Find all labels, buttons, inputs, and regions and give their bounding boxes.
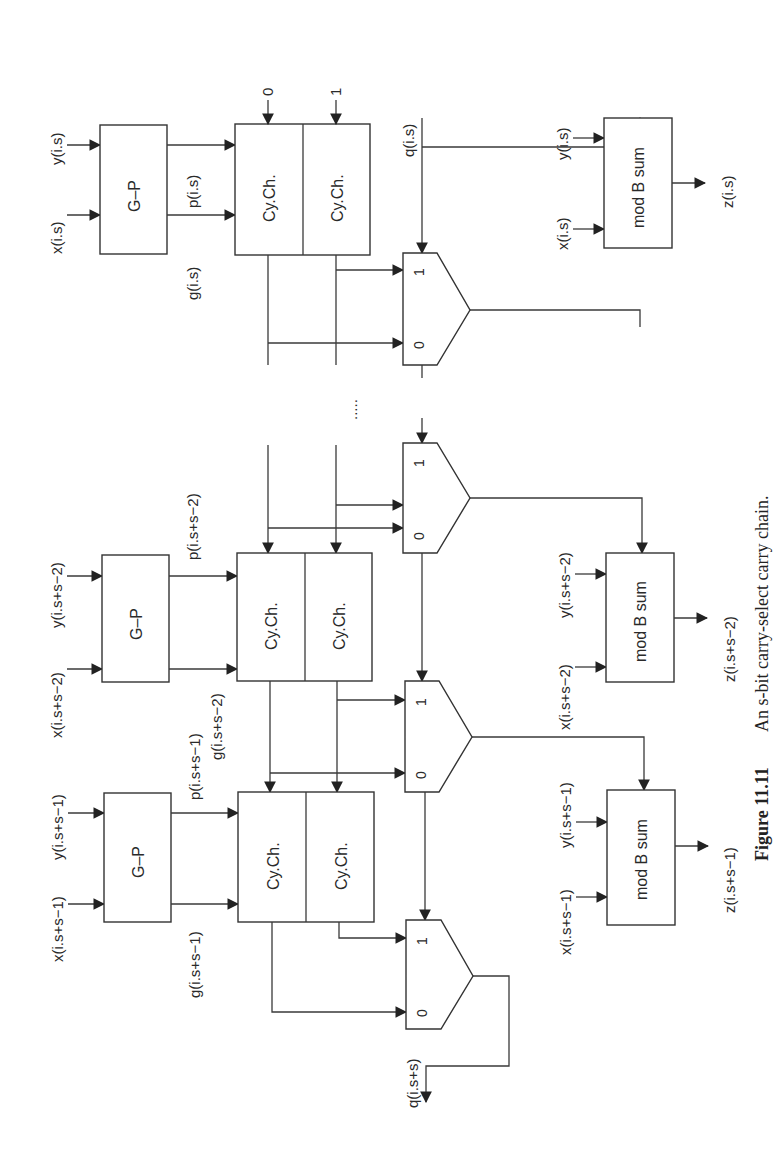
mux-1-in0-label: 0: [411, 532, 427, 540]
p-label: p(i.s): [184, 175, 201, 208]
gp-block-label: G–P: [130, 846, 147, 878]
stage-s-minus-2: 1 0 x(i.s+s−2) y(i.s+s−2) G–P g(i.s+s−2)…: [48, 418, 738, 792]
mux-0-out-wire: [470, 310, 640, 327]
g-label: g(i.s): [184, 267, 201, 300]
carry-chain-1-label: Cy.Ch.: [329, 174, 346, 222]
carry-in-0-label: 0: [259, 88, 276, 96]
x-input-label: x(i.s+s−1): [49, 896, 66, 962]
carry-chain-1-label: Cy.Ch.: [333, 842, 350, 890]
mod-b-sum-0-label: mod B sum: [630, 147, 647, 228]
gp-block-label: G–P: [128, 608, 145, 640]
q-input-label: q(i.s): [400, 124, 417, 157]
sum0-x-label: x(i.s): [554, 218, 571, 251]
stage-0: x(i.s) y(i.s) G–P g(i.s) p(i.s) Cy.Ch. C…: [48, 88, 736, 378]
mux-0-in1-label: 1: [411, 268, 427, 276]
y-input-label: y(i.s+s−1): [49, 794, 66, 860]
caption-text: An s-bit carry-select carry chain.: [752, 496, 772, 732]
mux-2-in0-label: 0: [413, 771, 429, 779]
mux-1-in1-label: 1: [411, 459, 427, 467]
mux-0-in0-label: 0: [411, 341, 427, 349]
g-label: g(i.s+s−1): [186, 931, 203, 998]
p-label: p(i.s+s−2): [184, 493, 201, 560]
mux-1-out-wire: [470, 498, 642, 553]
carry-chain-1-label: Cy.Ch.: [331, 602, 348, 650]
carry-chain-0-label: Cy.Ch.: [265, 842, 282, 890]
z0-label: z(i.s): [719, 176, 736, 209]
p-label: p(i.s+s−1): [186, 733, 203, 800]
gp-block-label: G–P: [126, 180, 143, 212]
z-label: z(i.s+s−1): [721, 847, 738, 913]
caption-number: Figure 11.11: [752, 767, 772, 861]
sum-y-label: y(i.s+s−2): [556, 552, 573, 618]
mux-3-in0-label: 0: [414, 1009, 430, 1017]
mod-b-sum-label: mod B sum: [632, 581, 649, 662]
y-input-label: y(i.s): [48, 133, 65, 166]
carry-in-1-label: 1: [327, 88, 344, 96]
carry-select-diagram: x(i.s) y(i.s) G–P g(i.s) p(i.s) Cy.Ch. C…: [0, 0, 782, 1161]
mod-b-sum-label: mod B sum: [633, 819, 650, 900]
x-input-label: x(i.s+s−2): [48, 672, 65, 738]
carry-out-label: q(i.s+s): [404, 1058, 421, 1108]
mux-2-in1-label: 1: [413, 698, 429, 706]
carry-chain-0-label: Cy.Ch.: [261, 174, 278, 222]
sum0-y-label: y(i.s): [554, 128, 571, 161]
g-label: g(i.s+s−2): [208, 693, 225, 760]
figure-caption: Figure 11.11 An s-bit carry-select carry…: [752, 496, 772, 861]
carry-chain-0-label: Cy.Ch.: [263, 602, 280, 650]
z-label: z(i.s+s−2): [721, 616, 738, 682]
sum-x-label: x(i.s+s−1): [557, 889, 574, 955]
sum-y-label: y(i.s+s−1): [557, 782, 574, 848]
stage-s-minus-1: x(i.s+s−1) y(i.s+s−1) G–P g(i.s+s−1) p(i…: [49, 733, 738, 1108]
ellipsis: .....: [343, 399, 360, 420]
x-input-label: x(i.s): [48, 222, 65, 255]
mux3-in1-wire: [339, 922, 406, 938]
mux-3-in1-label: 1: [414, 937, 430, 945]
sum-x-label: x(i.s+s−2): [556, 664, 573, 730]
mux-2-out-wire: [472, 737, 644, 790]
y-input-label: y(i.s+s−2): [48, 562, 65, 628]
